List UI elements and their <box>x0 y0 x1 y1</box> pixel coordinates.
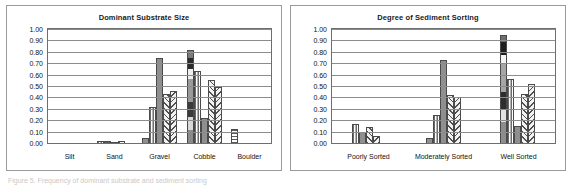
gridline <box>48 120 271 121</box>
bar <box>208 80 215 143</box>
plot-area-right <box>331 28 556 144</box>
y-axis-tick-label: 0.70 <box>29 60 43 67</box>
x-axis-label: Silt <box>47 153 92 160</box>
y-axis-tick-label: 0.00 <box>29 140 43 147</box>
gridline <box>332 86 555 87</box>
x-axis-label: Boulder <box>227 153 272 160</box>
y-axis-tick-label: 0.80 <box>29 48 43 55</box>
gridline <box>48 29 271 30</box>
y-axis-tick-label: 0.30 <box>29 105 43 112</box>
bar <box>215 87 222 143</box>
y-axis-tick-label: 0.10 <box>29 128 43 135</box>
bar <box>447 95 454 143</box>
plot-wrapper-right: 1.000.900.800.700.600.500.400.300.200.10… <box>291 6 565 170</box>
gridline <box>332 97 555 98</box>
x-axis-label: Sand <box>92 153 137 160</box>
bar <box>149 107 156 143</box>
bar <box>507 79 514 143</box>
y-axis-tick-label: 0.40 <box>29 94 43 101</box>
y-axis-tick-label: 1.00 <box>313 26 327 33</box>
gridline <box>332 75 555 76</box>
gridline <box>332 120 555 121</box>
x-axis-label: Moderately Sorted <box>406 153 481 160</box>
bar <box>373 136 380 143</box>
bar <box>97 141 104 143</box>
bar <box>440 60 447 143</box>
gridline <box>48 86 271 87</box>
bar <box>352 124 359 143</box>
plot-area-left <box>47 28 272 144</box>
bar <box>118 141 125 143</box>
y-axis-tick-label: 0.80 <box>313 48 327 55</box>
bar <box>104 141 111 143</box>
x-axis-label: Poorly Sorted <box>331 153 406 160</box>
y-axis-tick-label: 0.70 <box>313 60 327 67</box>
gridline <box>48 40 271 41</box>
y-axis-tick-label: 0.20 <box>313 117 327 124</box>
bar <box>433 115 440 144</box>
y-axis-tick-label: 0.00 <box>313 140 327 147</box>
y-axis-tick-label: 0.90 <box>29 37 43 44</box>
x-axis-label: Well Sorted <box>481 153 556 160</box>
bar <box>521 94 528 143</box>
bar <box>528 84 535 143</box>
bar <box>366 127 373 143</box>
x-axis-label: Gravel <box>137 153 182 160</box>
bar <box>111 142 118 143</box>
gridline <box>332 109 555 110</box>
y-axis-tick-label: 0.60 <box>313 71 327 78</box>
x-axis-label: Cobble <box>182 153 227 160</box>
y-axis-tick-label: 0.30 <box>313 105 327 112</box>
plot-wrapper-left: 1.000.900.800.700.600.500.400.300.200.10… <box>7 6 281 170</box>
figure-caption: Figure 5. Frequency of dominant substrat… <box>8 176 564 185</box>
gridline <box>48 52 271 53</box>
y-axis-tick-label: 0.20 <box>29 117 43 124</box>
y-axis-tick-label: 0.50 <box>29 83 43 90</box>
gridline <box>332 52 555 53</box>
chart-panel-dominant-substrate-size: Dominant Substrate Size 1.000.900.800.70… <box>6 5 282 171</box>
figure-caption-text: Figure 5. Frequency of dominant substrat… <box>8 176 564 185</box>
bar <box>426 138 433 143</box>
bar <box>514 126 521 143</box>
y-axis-tick-label: 0.10 <box>313 128 327 135</box>
gridline <box>332 132 555 133</box>
gridline <box>48 63 271 64</box>
y-axis-tick-label: 1.00 <box>29 26 43 33</box>
bar <box>201 118 208 143</box>
gridline <box>48 109 271 110</box>
bar <box>142 138 149 143</box>
gridline <box>332 40 555 41</box>
figure-page: Dominant Substrate Size 1.000.900.800.70… <box>0 0 572 185</box>
y-axis-tick-label: 0.40 <box>313 94 327 101</box>
y-axis-tick-label: 0.60 <box>29 71 43 78</box>
x-axis-labels-left: SiltSandGravelCobbleBoulder <box>47 153 272 160</box>
y-axis-tick-label: 0.90 <box>313 37 327 44</box>
x-axis-labels-right: Poorly SortedModerately SortedWell Sorte… <box>331 153 556 160</box>
bar <box>359 132 366 143</box>
chart-panel-degree-of-sediment-sorting: Degree of Sediment Sorting 1.000.900.800… <box>290 5 566 171</box>
bar <box>170 91 177 143</box>
bar <box>156 58 163 144</box>
bar <box>163 94 170 143</box>
y-axis-tick-label: 0.50 <box>313 83 327 90</box>
gridline <box>48 132 271 133</box>
gridline <box>332 29 555 30</box>
gridline <box>332 63 555 64</box>
gridline <box>48 97 271 98</box>
gridline <box>48 75 271 76</box>
